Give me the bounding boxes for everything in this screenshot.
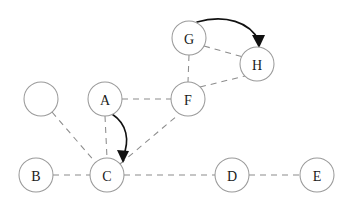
node-g-circle[interactable] [172,21,206,55]
arrowhead-g-to-h [252,35,265,48]
node-d-circle[interactable] [215,158,249,192]
node-e-circle[interactable] [300,158,334,192]
node-f-circle[interactable] [171,82,205,116]
edge-c-f [120,115,178,164]
edge-empty-c [52,112,96,163]
node-empty[interactable] [24,82,58,116]
edge-g-f [188,55,189,82]
node-d[interactable]: D [215,158,249,192]
node-a-circle[interactable] [88,82,122,116]
node-b-circle[interactable] [19,158,53,192]
node-h[interactable]: H [240,47,274,81]
node-e[interactable]: E [300,158,334,192]
node-a[interactable]: A [88,82,122,116]
node-layer: A B C D E F G [19,21,334,192]
arrowhead-a-to-c [117,150,129,163]
node-c-circle[interactable] [90,158,124,192]
edge-f-h [200,76,245,87]
graph-diagram: A B C D E F G [0,0,347,205]
node-empty-circle[interactable] [24,82,58,116]
edge-a-c [105,116,107,158]
edge-g-h [204,46,243,57]
node-c[interactable]: C [90,158,124,192]
node-g[interactable]: G [172,21,206,55]
node-b[interactable]: B [19,158,53,192]
node-f[interactable]: F [171,82,205,116]
graph-canvas: A B C D E F G [0,0,347,205]
node-h-circle[interactable] [240,47,274,81]
